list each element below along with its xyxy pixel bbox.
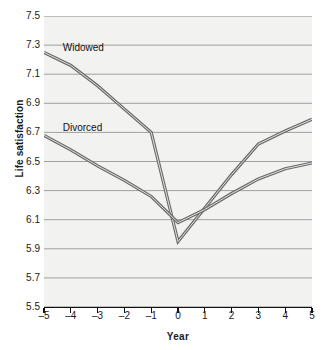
series-label-widowed: Widowed <box>63 42 104 53</box>
series-line-highlight-divorced <box>44 135 312 222</box>
x-tick-label: 1 <box>192 310 218 321</box>
x-tick-label: 5 <box>299 310 325 321</box>
series-line-widowed <box>44 52 312 241</box>
y-tick-label-group: 5.55.75.96.16.36.56.76.97.17.37.5 <box>14 0 40 350</box>
y-tick-label: 6.1 <box>14 215 40 225</box>
x-tick-label: –5 <box>31 310 57 321</box>
series-label-divorced: Divorced <box>63 122 102 133</box>
y-tick-label: 5.9 <box>14 244 40 254</box>
y-tick-label: 6.5 <box>14 157 40 167</box>
y-tick-label: 6.7 <box>14 127 40 137</box>
series-line-highlight-widowed <box>44 52 312 241</box>
life-satisfaction-line-chart: Life satisfaction 5.55.75.96.16.36.56.76… <box>0 0 329 350</box>
y-tick-label: 7.5 <box>14 11 40 21</box>
x-axis-title: Year <box>44 331 312 342</box>
y-tick-label: 7.1 <box>14 69 40 79</box>
chart-canvas <box>44 16 312 307</box>
x-tick-label: –2 <box>111 310 137 321</box>
x-tick-label: 2 <box>219 310 245 321</box>
x-tick-label: 4 <box>272 310 298 321</box>
plot-area: WidowedDivorced <box>44 16 312 307</box>
x-tick-label: 3 <box>245 310 271 321</box>
x-tick-label: 0 <box>165 310 191 321</box>
x-tick-label: –4 <box>58 310 84 321</box>
y-tick-label: 6.3 <box>14 186 40 196</box>
series-line-divorced <box>44 135 312 222</box>
x-tick-label: –1 <box>138 310 164 321</box>
y-tick-label: 5.7 <box>14 273 40 283</box>
y-tick-label: 6.9 <box>14 98 40 108</box>
y-tick-label: 7.3 <box>14 40 40 50</box>
x-tick-label: –3 <box>85 310 111 321</box>
